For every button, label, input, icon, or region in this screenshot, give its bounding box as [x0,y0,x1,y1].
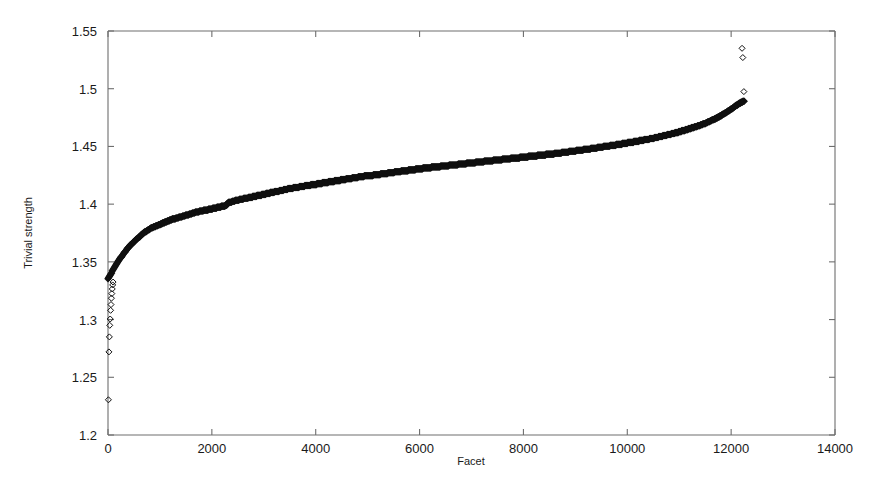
x-tick-label: 12000 [713,441,749,456]
y-tick-label: 1.25 [72,370,97,385]
x-tick-label: 6000 [405,441,434,456]
x-tick-label: 8000 [509,441,538,456]
y-tick-label: 1.45 [72,139,97,154]
y-tick-label: 1.55 [72,24,97,39]
x-tick-label: 0 [104,441,111,456]
scatter-plot-canvas: 02000400060008000100001200014000 1.21.25… [0,0,887,482]
x-tick-label: 10000 [609,441,645,456]
y-tick-label: 1.4 [79,197,97,212]
y-tick-label: 1.3 [79,313,97,328]
y-tick-label: 1.5 [79,82,97,97]
y-tick-label: 1.2 [79,428,97,443]
x-axis-title: Facet [457,455,485,467]
x-tick-label: 4000 [301,441,330,456]
x-tick-label: 14000 [817,441,853,456]
chart-figure: 02000400060008000100001200014000 1.21.25… [0,0,887,482]
y-tick-label: 1.35 [72,255,97,270]
y-axis-title: Trivial strength [22,197,34,269]
x-tick-label: 2000 [197,441,226,456]
